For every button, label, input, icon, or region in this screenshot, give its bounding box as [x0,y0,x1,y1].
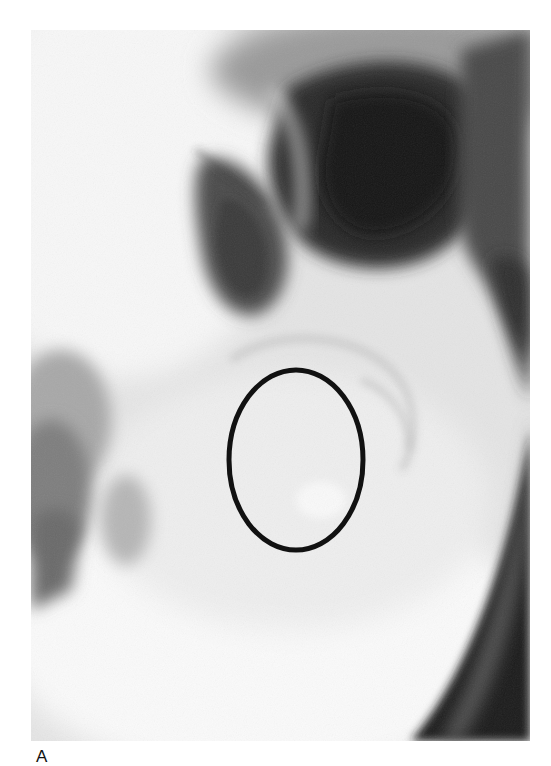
panel-label: A [36,748,47,766]
xray-svg [31,30,530,741]
xray-image [31,30,530,741]
